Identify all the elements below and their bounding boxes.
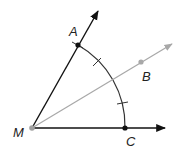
point-a — [75, 42, 80, 47]
label-a: A — [68, 24, 78, 39]
point-m — [29, 125, 35, 131]
label-m: M — [13, 125, 24, 140]
point-b — [138, 59, 143, 64]
point-c — [122, 125, 127, 130]
label-b: B — [142, 69, 151, 84]
angle-bisector-diagram: A B C M — [0, 0, 181, 153]
ray-mb-bisector — [32, 44, 172, 128]
ray-ma — [32, 11, 98, 128]
label-c: C — [126, 134, 136, 149]
